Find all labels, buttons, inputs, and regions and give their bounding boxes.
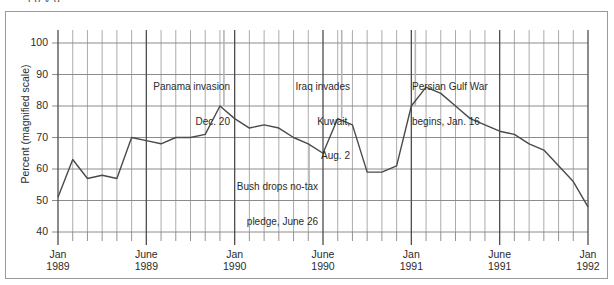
annotation-panama-line1: Panama invasion: [118, 81, 230, 93]
y-axis-tick-80: 80: [22, 99, 48, 111]
x-tick-month: June: [470, 249, 530, 261]
annotation-gulf-war-line2: begins, Jan. 16: [412, 116, 542, 128]
annotation-no-tax-line1: Bush drops no-tax: [196, 181, 318, 193]
y-axis-tick-60: 60: [22, 162, 48, 174]
x-tick-month: Jan: [28, 249, 88, 261]
y-axis-tick-100: 100: [22, 36, 48, 48]
x-tick-month: Jan: [205, 249, 265, 261]
x-tick-month: June: [116, 249, 176, 261]
x-tick-year: 1990: [205, 261, 265, 273]
x-axis-tick-jan-1991: Jan1991: [381, 249, 441, 272]
annotation-no-tax-line2: pledge, June 26: [196, 216, 318, 228]
annotation-panama-line2: Dec. 20: [118, 116, 230, 128]
y-axis-tick-50: 50: [22, 194, 48, 206]
x-tick-month: Jan: [381, 249, 441, 261]
x-tick-year: 1991: [381, 261, 441, 273]
x-axis-tick-jan-1989: Jan1989: [28, 249, 88, 272]
x-tick-year: 1989: [28, 261, 88, 273]
x-axis-tick-jan-1990: Jan1990: [205, 249, 265, 272]
annotation-no-tax-pledge: Bush drops no-tax pledge, June 26: [196, 158, 318, 250]
annotation-gulf-war-line1: Persian Gulf War: [412, 81, 542, 93]
x-tick-year: 1990: [293, 261, 353, 273]
y-axis-tick-70: 70: [22, 131, 48, 143]
x-tick-month: Jan: [558, 249, 614, 261]
annotation-iraq-line1: Iraq invades: [250, 81, 350, 93]
annotation-iraq-line2: Kuwait,: [250, 116, 350, 128]
x-axis-tick-june-1989: June1989: [116, 249, 176, 272]
annotation-gulf-war: Persian Gulf War begins, Jan. 16: [412, 58, 542, 150]
x-axis-tick-june-1991: June1991: [470, 249, 530, 272]
x-tick-month: June: [293, 249, 353, 261]
annotation-panama: Panama invasion Dec. 20: [118, 58, 230, 150]
x-tick-year: 1991: [470, 261, 530, 273]
y-axis-tick-40: 40: [22, 225, 48, 237]
x-axis-tick-june-1990: June1990: [293, 249, 353, 272]
x-tick-year: 1989: [116, 261, 176, 273]
y-axis-tick-90: 90: [22, 68, 48, 80]
chart-figure: l p y g Percent (magnified scale) 100908…: [0, 0, 614, 285]
x-tick-year: 1992: [558, 261, 614, 273]
x-axis-tick-jan-1992: Jan1992: [558, 249, 614, 272]
